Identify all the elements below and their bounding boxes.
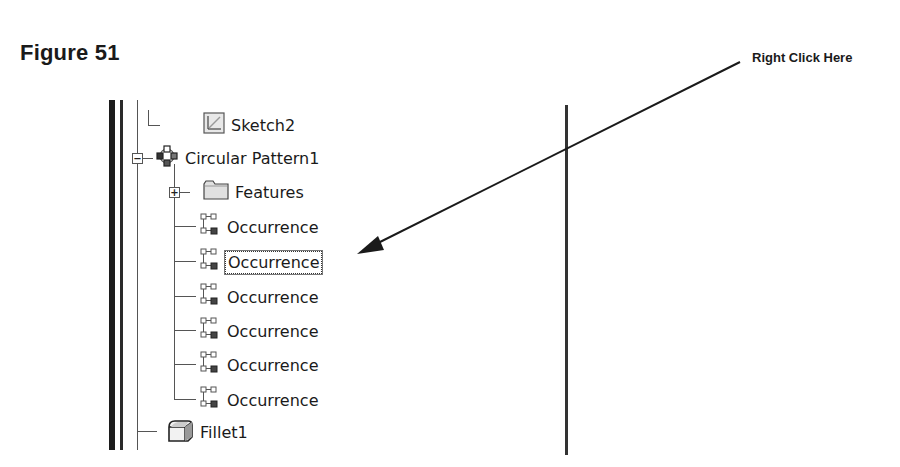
tree-item-label: Occurrence [225,355,320,376]
sketch-icon [203,112,225,138]
occurrence-icon [199,385,221,415]
occurrence-icon [199,316,221,346]
tree-item-label: Occurrence [225,321,320,342]
expand-toggle-features[interactable]: + [169,187,180,198]
tree-item-fillet1[interactable]: Fillet1 [166,417,250,447]
tree-item-occurrence-5[interactable]: Occurrence [199,350,320,380]
tree-guide-occ6 [174,399,196,400]
tree-guide-features-h [180,192,190,193]
tree-guide-fillet-h [137,431,157,432]
tree-item-label: Occurrence [225,287,320,308]
tree-guide-pattern-h [143,158,153,159]
collapse-toggle-circular-pattern[interactable]: − [132,153,143,164]
tree-item-circular-pattern1[interactable]: Circular Pattern1 [155,143,321,173]
tree-guide-occ1 [174,226,196,227]
tree-item-occurrence-4[interactable]: Occurrence [199,316,320,346]
tree-item-occurrence-3[interactable]: Occurrence [199,282,320,312]
tree-item-label: Occurrence [225,217,320,238]
tree-item-occurrence-1[interactable]: Occurrence [199,212,320,242]
tree-guide-sketch [148,110,149,125]
tree-guide-occ2 [174,261,196,262]
folder-icon [203,179,229,205]
fillet-icon [166,417,194,447]
occurrence-icon [199,212,221,242]
tree-item-occurrence-6[interactable]: Occurrence [199,385,320,415]
tree-item-label-selected: Occurrence [225,251,322,274]
tree-item-label: Circular Pattern1 [183,148,321,169]
panel-splitter[interactable] [565,105,568,455]
circular-pattern-icon [155,144,179,172]
tree-guide-sketch-h [148,125,160,126]
tree-guide-occ5 [174,364,196,365]
occurrence-icon [199,282,221,312]
panel-border-thick [109,100,115,450]
tree-item-occurrence-2[interactable]: Occurrence [199,247,322,277]
occurrence-icon [199,350,221,380]
tree-guide-occ4 [174,330,196,331]
panel-border-thin [120,100,123,450]
tree-item-sketch2[interactable]: Sketch2 [203,110,297,140]
figure-title: Figure 51 [20,40,120,66]
tree-item-features[interactable]: Features [203,177,306,207]
occurrence-icon [199,247,221,277]
tree-item-label: Features [233,182,306,203]
tree-item-label: Occurrence [225,390,320,411]
tree-guide-occ3 [174,296,196,297]
tree-item-label: Sketch2 [229,115,297,136]
callout-label: Right Click Here [752,50,852,65]
callout-arrow [0,0,900,467]
tree-item-label: Fillet1 [198,422,250,443]
